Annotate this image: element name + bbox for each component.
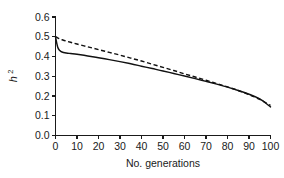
y-tick-label: 0.1	[35, 109, 50, 121]
x-tick-label: 50	[157, 140, 169, 152]
y-tick-label: 0.0	[35, 129, 50, 141]
y-axis-title-exponent: 2	[6, 70, 15, 74]
chart-figure: 0.00.10.20.30.40.50.6 010203040506070809…	[0, 0, 284, 178]
x-tick-label: 10	[71, 140, 83, 152]
x-tick-label: 60	[179, 140, 191, 152]
x-tick-label: 80	[222, 140, 234, 152]
x-tick-label: 20	[93, 140, 105, 152]
y-axis-title-symbol: h	[7, 76, 19, 82]
x-tick-label: 70	[200, 140, 212, 152]
x-axis-title: No. generations	[126, 157, 200, 169]
x-tick-label: 0	[53, 140, 59, 152]
y-tick-label: 0.4	[35, 50, 50, 62]
x-tick-label: 40	[136, 140, 148, 152]
x-tick-label: 90	[243, 140, 255, 152]
y-tick-label: 0.6	[35, 11, 50, 23]
line-chart: 0.00.10.20.30.40.50.6 010203040506070809…	[0, 0, 284, 178]
y-tick-label: 0.5	[35, 30, 50, 42]
x-tick-label: 100	[262, 140, 280, 152]
y-tick-label: 0.2	[35, 90, 50, 102]
y-tick-label: 0.3	[35, 70, 50, 82]
x-tick-label: 30	[114, 140, 126, 152]
